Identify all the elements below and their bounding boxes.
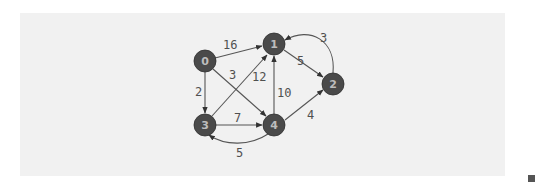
edge-label-1-2: 5 xyxy=(297,54,304,68)
edge-label-0-4: 3 xyxy=(229,68,236,82)
edge-labels: 16 2 3 12 10 7 5 3 4 5 xyxy=(195,31,327,160)
edge-4-3 xyxy=(209,134,268,143)
edge-label-4-2: 4 xyxy=(307,108,314,122)
nodes: 0 1 2 3 4 xyxy=(194,33,344,136)
directed-weighted-graph: 16 2 3 12 10 7 5 3 4 5 0 1 2 3 4 xyxy=(0,0,535,182)
graph-node-0: 0 xyxy=(194,50,216,72)
corner-marker xyxy=(528,175,535,182)
edge-label-4-3: 5 xyxy=(236,146,243,160)
svg-text:3: 3 xyxy=(201,119,209,132)
edge-label-3-4: 7 xyxy=(234,111,241,125)
edge-label-0-1: 16 xyxy=(223,38,237,52)
edge-3-1 xyxy=(212,55,267,116)
graph-node-1: 1 xyxy=(263,33,285,55)
graph-node-4: 4 xyxy=(263,114,285,136)
svg-text:0: 0 xyxy=(201,55,209,68)
svg-text:1: 1 xyxy=(270,38,278,51)
svg-text:4: 4 xyxy=(270,119,278,132)
edge-label-3-1: 12 xyxy=(252,70,266,84)
svg-text:2: 2 xyxy=(329,78,337,91)
edge-label-4-1: 10 xyxy=(277,86,291,100)
graph-node-3: 3 xyxy=(194,114,216,136)
graph-node-2: 2 xyxy=(322,73,344,95)
edge-label-0-3: 2 xyxy=(195,85,202,99)
edge-label-2-1: 3 xyxy=(320,31,327,45)
